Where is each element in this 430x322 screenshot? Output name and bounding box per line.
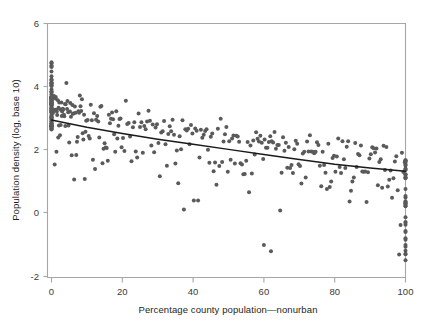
data-point <box>110 110 114 114</box>
data-point <box>172 133 176 137</box>
data-point <box>213 161 217 165</box>
data-point <box>50 70 54 74</box>
data-point <box>246 140 250 144</box>
data-point <box>115 136 119 140</box>
data-point <box>192 199 196 203</box>
data-point <box>113 150 117 154</box>
data-point <box>59 123 63 127</box>
data-point <box>180 118 184 122</box>
data-point <box>61 107 65 111</box>
data-point <box>130 159 134 163</box>
data-point <box>284 141 288 145</box>
data-point <box>165 164 169 168</box>
y-tick-label: 2 <box>34 144 39 155</box>
y-tick-labels: 6 4 2 0 -2 <box>31 18 39 282</box>
data-point <box>348 200 352 204</box>
data-point <box>148 119 152 123</box>
data-point <box>155 122 159 126</box>
data-point <box>75 140 79 144</box>
data-point <box>96 120 100 124</box>
data-point <box>404 159 408 163</box>
data-point <box>120 145 124 149</box>
data-point <box>64 81 68 85</box>
data-point <box>161 129 165 133</box>
data-point <box>335 155 339 159</box>
data-point <box>144 127 148 131</box>
data-point <box>103 141 107 145</box>
data-point <box>374 146 378 150</box>
data-point <box>79 104 83 108</box>
data-point <box>350 180 354 184</box>
data-point <box>206 148 210 152</box>
data-point <box>366 170 370 174</box>
data-point <box>210 131 214 135</box>
data-point <box>394 154 398 158</box>
data-point <box>404 252 408 256</box>
data-point <box>328 185 332 189</box>
data-point <box>152 150 156 154</box>
data-point <box>173 161 177 165</box>
data-point <box>93 167 97 171</box>
data-point <box>105 146 109 150</box>
x-tick-label: 20 <box>117 286 128 297</box>
data-point <box>404 194 408 198</box>
data-point <box>223 132 227 136</box>
data-point <box>404 199 408 203</box>
data-point <box>54 150 58 154</box>
data-point <box>229 158 233 162</box>
data-point <box>162 119 166 123</box>
data-point <box>147 109 151 113</box>
data-point <box>399 223 403 227</box>
data-point <box>186 127 190 131</box>
data-point <box>324 171 328 175</box>
data-point <box>367 157 371 161</box>
data-point <box>134 149 138 153</box>
data-point <box>404 230 408 234</box>
data-point <box>119 117 123 121</box>
data-point <box>222 140 226 144</box>
x-tick-label: 80 <box>329 286 340 297</box>
data-point <box>67 141 71 145</box>
data-point <box>278 209 282 213</box>
data-point <box>163 142 167 146</box>
y-tick-label: 4 <box>34 81 39 92</box>
data-point <box>357 153 361 157</box>
data-point <box>107 113 111 117</box>
data-point <box>166 132 170 136</box>
data-point <box>83 177 87 181</box>
data-point <box>169 129 173 133</box>
data-point <box>298 164 302 168</box>
data-point <box>268 134 272 138</box>
data-point <box>326 142 330 146</box>
data-point <box>248 143 252 147</box>
data-point <box>373 150 377 154</box>
data-point <box>345 145 349 149</box>
data-point <box>76 135 80 139</box>
data-point <box>346 139 350 143</box>
data-point <box>78 93 82 97</box>
x-axis-title: Percentage county population—nonurban <box>138 304 317 315</box>
data-point <box>251 138 255 142</box>
data-point <box>168 124 172 128</box>
data-point <box>91 158 95 162</box>
data-point <box>265 146 269 150</box>
data-point <box>171 118 175 122</box>
data-point <box>53 163 57 167</box>
data-point <box>124 99 128 103</box>
data-point <box>59 100 63 104</box>
data-point <box>151 123 155 127</box>
data-point <box>342 157 346 161</box>
data-point <box>308 133 312 137</box>
data-point <box>108 121 112 125</box>
data-point <box>131 125 135 129</box>
data-point <box>189 123 193 127</box>
data-point <box>122 149 126 153</box>
data-point <box>271 141 275 145</box>
data-point <box>114 109 118 113</box>
data-point <box>190 131 194 135</box>
x-tick-label: 0 <box>49 286 54 297</box>
data-point <box>202 133 206 137</box>
data-point <box>292 147 296 151</box>
data-point <box>404 238 408 242</box>
data-point <box>205 127 209 131</box>
